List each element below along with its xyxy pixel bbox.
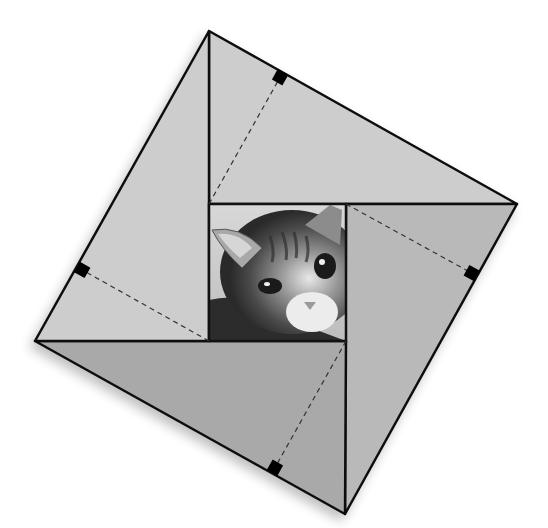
diagram-canvas [0, 0, 548, 528]
pythagorean-diagram [0, 0, 548, 528]
triangle-top [209, 31, 517, 204]
cat-left-eye-glint [264, 282, 270, 286]
cat-left-eye [258, 278, 282, 294]
cat-right-eye-glint [319, 259, 325, 265]
cat-right-eye [314, 253, 336, 279]
cat-photo [209, 204, 364, 341]
triangle-bottom [35, 341, 346, 514]
triangle-left [35, 31, 209, 341]
triangle-right [345, 204, 517, 514]
cat-muzzle [286, 292, 338, 332]
